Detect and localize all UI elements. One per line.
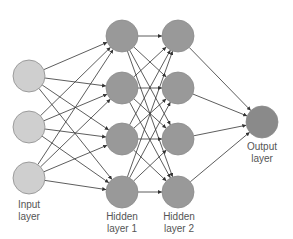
output-layer-label-line1: Output	[247, 141, 277, 152]
connection-input-2-to-hidden1-1	[41, 99, 111, 167]
hidden-layer-2-label-line1: Hidden	[163, 211, 195, 222]
hidden-layer-2-label-line2: layer 2	[164, 223, 194, 234]
connection-input-1-to-hidden1-0	[40, 47, 110, 116]
hidden1-node-1	[106, 20, 138, 52]
hidden1-node-2	[106, 72, 138, 104]
connection-hidden2-2-to-output-0	[194, 125, 247, 136]
connections	[38, 36, 251, 192]
input-node-2	[13, 111, 45, 143]
input-layer-label-line1: Input	[18, 199, 40, 210]
hidden2-node-4	[162, 176, 194, 208]
hidden-layer-1-label-line2: layer 1	[107, 223, 137, 234]
neurons	[13, 20, 278, 208]
connection-input-2-to-hidden1-2	[44, 145, 107, 172]
connection-hidden2-0-to-output-0	[189, 47, 251, 110]
output-node-1	[246, 106, 278, 138]
connection-input-0-to-hidden1-0	[44, 42, 108, 69]
hidden2-node-3	[162, 123, 194, 155]
hidden1-node-3	[106, 123, 138, 155]
connection-hidden2-1-to-output-0	[193, 94, 247, 116]
input-node-1	[13, 60, 45, 92]
connection-hidden2-3-to-output-0	[190, 132, 249, 182]
input-layer-label-line2: layer	[18, 211, 40, 222]
neural-network-diagram: Input layer Hidden layer 1 Hidden layer …	[0, 0, 293, 239]
hidden2-node-2	[162, 72, 194, 104]
connection-input-0-to-hidden1-3	[39, 89, 112, 180]
connection-input-2-to-hidden1-3	[45, 180, 106, 189]
hidden-layer-1-label-line1: Hidden	[106, 211, 138, 222]
input-node-3	[13, 162, 45, 194]
hidden2-node-1	[162, 20, 194, 52]
output-layer-label-line2: layer	[251, 153, 273, 164]
hidden1-node-4	[106, 176, 138, 208]
